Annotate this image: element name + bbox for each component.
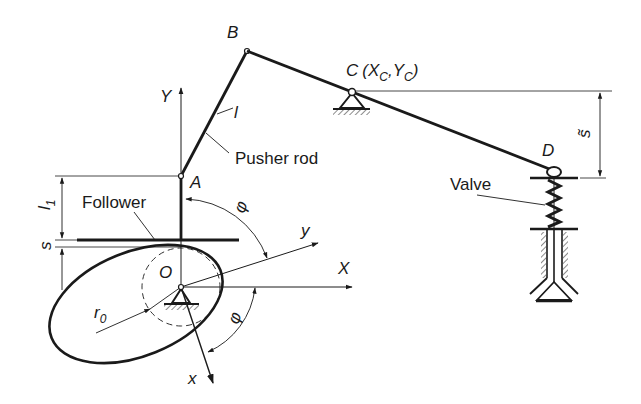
point-C-label: C(XC,YC) [346,61,418,84]
valve-callout-leader [477,195,545,205]
mechanism-diagram: Y X y x r0 O Follower l1 s φ [0,0,641,404]
axis-y-rotated [181,243,318,287]
joint-A [179,174,184,179]
valve-assembly [530,178,578,301]
l1-label: l1 [35,200,58,210]
s-tilde-label: s̃ [575,128,594,138]
r0-label: r0 [94,303,107,326]
l-label: l [234,103,239,122]
cam-profile [32,222,240,387]
axis-X-label: X [337,259,350,278]
follower-callout-leader [134,212,155,240]
follower-callout: Follower [82,193,147,212]
pusher-rod-callout: Pusher rod [235,149,318,168]
phi-label-top: φ [230,198,252,215]
s-label: s [36,241,55,250]
pusher-rod-leader [206,133,229,153]
point-D-label: D [542,141,554,160]
valve-callout: Valve [450,175,491,194]
rocker-pivot-support-C [333,89,370,116]
joint-D-roller [547,167,561,177]
axis-y-label: y [300,221,311,240]
axis-x-label: x [187,369,197,388]
l-leader [217,108,233,114]
cam-pivot-support-O [164,285,199,311]
point-B-label: B [227,23,238,42]
point-O-label: O [159,263,172,282]
axis-Y-label: Y [160,87,173,106]
phi-label-bottom: φ [224,309,246,326]
point-A-label: A [189,173,201,192]
